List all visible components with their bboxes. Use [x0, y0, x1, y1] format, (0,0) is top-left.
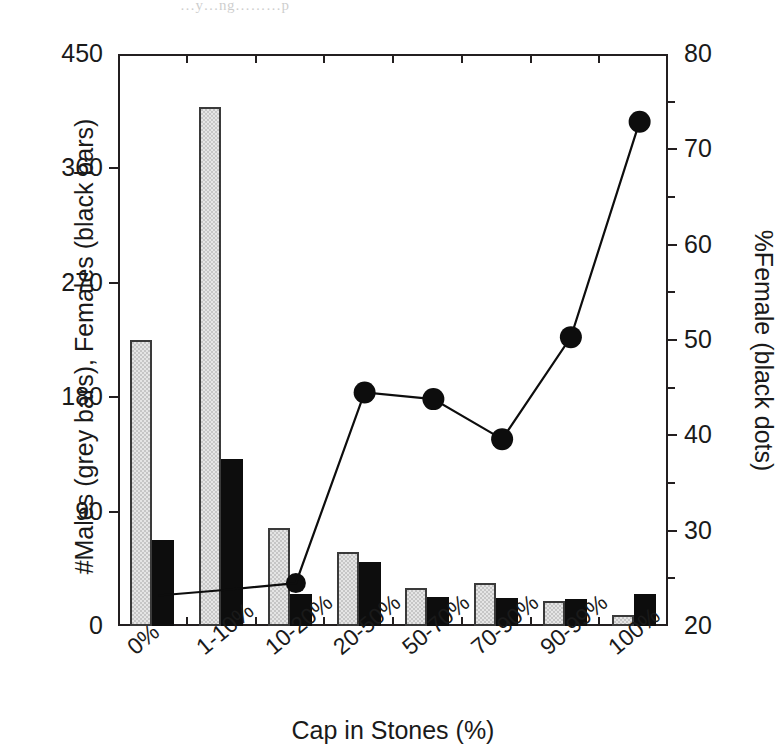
- x-axis-title: Cap in Stones (%): [118, 716, 668, 745]
- percent-female-dot: [491, 428, 513, 450]
- y-minor-tick-right: [668, 577, 675, 579]
- y-axis-right-title: %Female (black dots): [749, 71, 778, 631]
- percent-female-dot: [629, 111, 651, 133]
- y-minor-tick-right: [668, 387, 675, 389]
- y-axis-left-title: #Males (grey bars), Females (black bars): [70, 67, 99, 627]
- percent-female-dot: [422, 388, 444, 410]
- y-tick-right: [668, 244, 677, 246]
- y-tick-label-left: 450: [8, 41, 103, 66]
- y-tick-right: [668, 339, 677, 341]
- y-minor-tick-right: [668, 196, 675, 198]
- y-tick-left: [109, 511, 118, 513]
- y-tick-left: [109, 167, 118, 169]
- y-minor-tick-right: [668, 291, 675, 293]
- percent-female-dot: [354, 381, 376, 403]
- percent-female-line-series: [118, 54, 668, 626]
- y-tick-label-right: 80: [684, 41, 779, 66]
- y-minor-tick-right: [668, 482, 675, 484]
- y-tick-left: [109, 282, 118, 284]
- y-tick-left: [109, 396, 118, 398]
- y-minor-tick-right: [668, 101, 675, 103]
- y-tick-right: [668, 434, 677, 436]
- y-tick-right: [668, 148, 677, 150]
- figure-chart: 090180270360450 20304050607080 0%1-10%10…: [0, 0, 779, 753]
- percent-female-dot: [560, 326, 582, 348]
- y-tick-right: [668, 530, 677, 532]
- percent-female-line: [158, 122, 639, 596]
